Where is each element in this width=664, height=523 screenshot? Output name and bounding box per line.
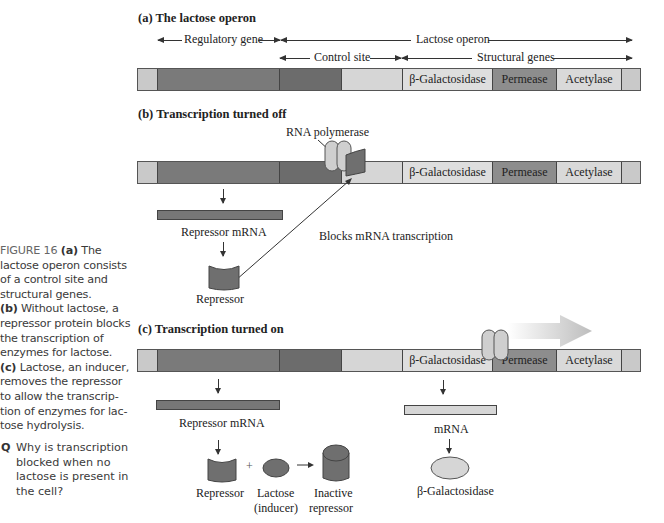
segment-operator xyxy=(342,350,403,371)
segment-right-end xyxy=(622,350,640,371)
down-arrow-c4 xyxy=(218,440,219,454)
galactosidase-label-c: β-Galactosidase xyxy=(417,484,494,499)
repressor-mrna-bar-c xyxy=(156,400,280,410)
lactose-icon xyxy=(261,457,291,479)
inactive-label: Inactive xyxy=(314,486,353,501)
inducer-label: (inducer) xyxy=(254,501,298,516)
repressor-label-c: Repressor xyxy=(196,486,244,501)
transcription-direction-arrow xyxy=(508,315,592,347)
segment-acetylase: Acetylase xyxy=(557,350,622,371)
segment-regulatory-gene xyxy=(158,350,280,371)
repressor-icon-c xyxy=(206,456,240,484)
inactive-repressor-icon xyxy=(321,444,351,486)
plus-sign: + xyxy=(246,459,253,474)
galactosidase-enzyme-icon xyxy=(430,456,470,482)
operon-bar-c: β-Galactosidase Permease Acetylase xyxy=(137,349,641,372)
reaction-arrow xyxy=(296,460,316,470)
lactose-label: Lactose xyxy=(257,486,294,501)
repressor-mrna-label-c: Repressor mRNA xyxy=(179,416,265,431)
down-arrow-c2 xyxy=(443,380,444,394)
mrna-bar xyxy=(404,405,497,415)
inactive-repressor-label: repressor xyxy=(309,501,353,516)
segment-promoter xyxy=(280,350,342,371)
down-arrow-c3 xyxy=(449,439,450,453)
down-arrow-c1 xyxy=(218,379,219,393)
mrna-label: mRNA xyxy=(434,422,469,437)
segment-left-end xyxy=(138,350,158,371)
rna-polymerase-icon-c xyxy=(480,329,514,363)
